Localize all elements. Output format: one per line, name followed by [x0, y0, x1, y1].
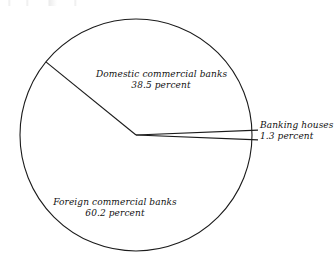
- pie-label-domestic-commercial-banks: Domestic commercial banks 38.5 percent: [96, 69, 226, 91]
- pie-label-foreign-commercial-banks: Foreign commercial banks 60.2 percent: [52, 197, 178, 219]
- pie-label-banking-name: Banking houses: [260, 120, 334, 131]
- pie-label-domestic-name: Domestic commercial banks: [96, 69, 226, 80]
- pie-label-banking-houses: Banking houses 1.3 percent: [260, 120, 334, 142]
- pie-label-foreign-name: Foreign commercial banks: [52, 197, 178, 208]
- pie-label-domestic-value: 38.5 percent: [96, 80, 226, 91]
- pie-label-banking-value: 1.3 percent: [260, 131, 334, 142]
- pie-label-foreign-value: 60.2 percent: [52, 208, 178, 219]
- pie-chart: Domestic commercial banks 38.5 percent F…: [0, 0, 336, 272]
